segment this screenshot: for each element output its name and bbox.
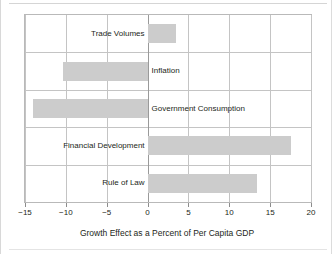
- gridline-horizontal: [25, 52, 311, 53]
- x-tick-mark: [148, 203, 149, 207]
- x-tick-mark: [107, 203, 108, 207]
- x-axis: −15−10−505101520: [24, 203, 312, 223]
- bar[interactable]: [148, 24, 177, 43]
- x-tick-label: 0: [145, 208, 149, 217]
- bar-category-label: Inflation: [152, 66, 311, 76]
- bar-category-label: Financial Development: [25, 141, 145, 151]
- gridline-vertical: [25, 15, 26, 202]
- x-tick-label: 10: [225, 208, 234, 217]
- bar[interactable]: [148, 174, 257, 193]
- bar[interactable]: [33, 99, 147, 118]
- figure-top-rule: [9, 3, 327, 4]
- x-tick-mark: [25, 203, 26, 207]
- x-tick-mark: [188, 203, 189, 207]
- gridline-vertical: [311, 15, 312, 202]
- x-axis-title: Growth Effect as a Percent of Per Capita…: [1, 228, 332, 238]
- gridline-horizontal: [25, 90, 311, 91]
- x-tick-mark: [270, 203, 271, 207]
- gridline-horizontal: [25, 127, 311, 128]
- x-tick-mark: [229, 203, 230, 207]
- x-tick-label: −5: [102, 208, 111, 217]
- plot-area: Trade VolumesInflationGovernment Consump…: [24, 14, 312, 203]
- bar[interactable]: [148, 136, 292, 155]
- x-tick-label: 5: [186, 208, 190, 217]
- x-tick-label: −15: [18, 208, 32, 217]
- figure-bottom-rule: [9, 249, 327, 250]
- x-tick-label: 20: [307, 208, 316, 217]
- x-tick-label: −10: [59, 208, 73, 217]
- x-tick-mark: [311, 203, 312, 207]
- gridline-horizontal: [25, 165, 311, 166]
- bar-category-label: Government Consumption: [152, 104, 311, 114]
- bar[interactable]: [63, 62, 148, 81]
- x-tick-label: 15: [266, 208, 275, 217]
- x-tick-mark: [66, 203, 67, 207]
- figure-frame: Trade VolumesInflationGovernment Consump…: [0, 0, 332, 254]
- bar-category-label: Rule of Law: [25, 178, 145, 188]
- bar-category-label: Trade Volumes: [25, 29, 145, 39]
